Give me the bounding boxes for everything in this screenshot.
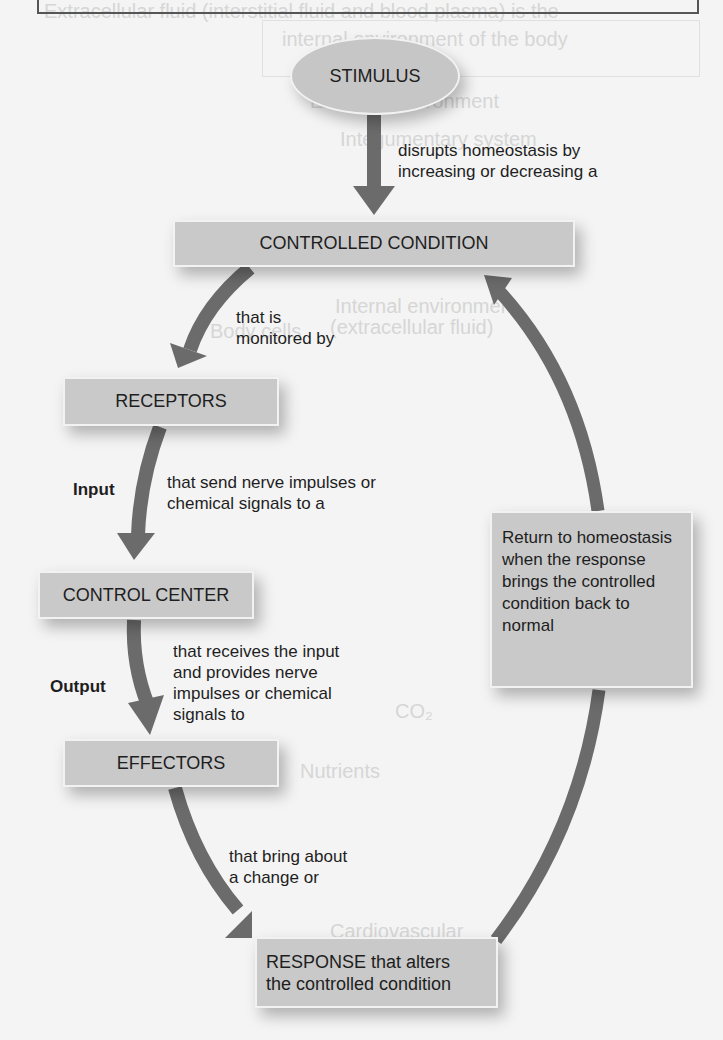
edge-label-line: that bring about <box>229 846 347 867</box>
return-to-homeostasis-box: Return to homeostasis when the response … <box>490 511 693 688</box>
edge-label-line: a change or <box>229 867 347 888</box>
edge-label-bring-change: that bring about a change or <box>229 846 347 888</box>
arrow-response-to-return <box>496 690 599 940</box>
effectors-label: EFFECTORS <box>117 753 226 774</box>
edge-label-line: chemical signals to a <box>167 493 376 514</box>
input-label: Input <box>73 480 115 500</box>
controlled-condition-label: CONTROLLED CONDITION <box>259 233 488 254</box>
receptors-node: RECEPTORS <box>63 377 279 426</box>
receptors-label: RECEPTORS <box>115 391 227 412</box>
response-label-line1: RESPONSE that alters <box>266 951 450 973</box>
edge-label-line: impulses or chemical <box>173 683 339 704</box>
edge-label-receives-input: that receives the input and provides ner… <box>173 641 339 725</box>
arrowhead-effectors-to-response <box>225 911 252 938</box>
edge-label-line: that send nerve impulses or <box>167 472 376 493</box>
edge-label-line: signals to <box>173 704 339 725</box>
arrowhead-receptors-to-center <box>117 533 155 560</box>
edge-label-line: that is <box>236 307 334 328</box>
response-node: RESPONSE that alters the controlled cond… <box>255 937 498 1008</box>
edge-label-line: monitored by <box>236 328 334 349</box>
edge-label-send-signals: that send nerve impulses or chemical sig… <box>167 472 376 514</box>
output-label: Output <box>50 677 106 697</box>
stimulus-node: STIMULUS <box>290 37 460 115</box>
return-to-homeostasis-label: Return to homeostasis when the response … <box>502 528 672 635</box>
arrow-return-to-condition <box>484 275 598 511</box>
control-center-node: CONTROL CENTER <box>38 571 254 619</box>
effectors-node: EFFECTORS <box>63 739 279 787</box>
arrow-center-to-effectors <box>134 620 148 705</box>
edge-label-line: disrupts homeostasis by <box>398 140 597 161</box>
stimulus-label: STIMULUS <box>329 66 420 87</box>
arrowhead-center-to-effectors <box>128 695 164 735</box>
edge-label-line: that receives the input <box>173 641 339 662</box>
edge-label-monitored: that is monitored by <box>236 307 334 349</box>
control-center-label: CONTROL CENTER <box>63 585 229 606</box>
edge-label-line: and provides nerve <box>173 662 339 683</box>
controlled-condition-node: CONTROLLED CONDITION <box>173 220 575 267</box>
arrow-stimulus-to-condition <box>353 115 395 215</box>
arrow-receptors-to-center <box>138 427 160 535</box>
response-label-line2: the controlled condition <box>266 973 451 995</box>
edge-label-disrupts: disrupts homeostasis by increasing or de… <box>398 140 597 182</box>
edge-label-line: increasing or decreasing a <box>398 161 597 182</box>
